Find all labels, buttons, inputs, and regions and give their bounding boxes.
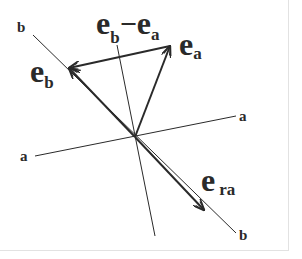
vector-e-ra-arrow [135,137,204,210]
vector-e-b-arrow [69,68,135,137]
vector-e-a-arrow [135,46,170,137]
vector-e-b-minus-e-a-arrow [69,46,170,68]
a-axis-label-end: a [239,108,247,124]
b-axis-label-end: b [239,227,247,243]
e-ra-label: era [201,162,236,199]
a-axis-label-start: a [20,148,28,164]
reference-line [117,45,155,236]
b-axis-label-start: b [17,19,25,35]
e-a-label: ea [179,26,202,63]
vector-diagram: b b a a eb eb−ea ea era [0,0,302,259]
e-b-minus-e-a-label: eb−ea [96,5,160,47]
e-b-label: eb [30,53,54,92]
